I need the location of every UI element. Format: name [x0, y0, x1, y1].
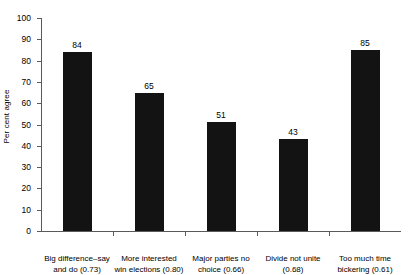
bar: [207, 122, 236, 231]
x-axis-line: [41, 231, 401, 232]
bar: [135, 93, 164, 231]
y-axis-tick: 0: [37, 231, 41, 232]
x-axis-tick: [113, 232, 114, 236]
y-axis-tick: 10: [37, 210, 41, 211]
y-axis-tick-label: 10: [22, 205, 31, 215]
y-axis-tick-label: 20: [22, 183, 31, 193]
y-axis-tick: 80: [37, 61, 41, 62]
y-axis-tick-label: 50: [22, 120, 31, 130]
y-axis-title-label: Per cent agree: [3, 89, 12, 143]
x-axis-tick: [257, 232, 258, 236]
y-axis-tick: 50: [37, 125, 41, 126]
x-axis-category-label: Big difference–say and do (0.73): [41, 254, 113, 275]
x-axis-category-label: Too much time bickering (0.61): [329, 254, 401, 275]
bar-value-label: 65: [129, 81, 169, 91]
bar: [63, 52, 92, 231]
y-axis-tick: 20: [37, 188, 41, 189]
y-axis-tick-label: 80: [22, 56, 31, 66]
y-axis-tick-label: 60: [22, 98, 31, 108]
y-axis-tick-label: 70: [22, 77, 31, 87]
x-axis-tick: [329, 232, 330, 236]
y-axis-tick: 40: [37, 146, 41, 147]
bar: [351, 50, 380, 231]
y-axis-tick: 70: [37, 82, 41, 83]
plot-area: 0102030405060708090100 8465514385 Big di…: [41, 18, 401, 232]
y-axis-tick-label: 40: [22, 141, 31, 151]
y-axis-title: Per cent agree: [0, 0, 14, 232]
y-axis-tick: 60: [37, 103, 41, 104]
bar-value-label: 51: [201, 110, 241, 120]
x-axis-tick: [185, 232, 186, 236]
y-axis-tick-label: 30: [22, 162, 31, 172]
y-axis-tick: 100: [37, 18, 41, 19]
y-axis-tick-label: 100: [17, 13, 31, 23]
bar-value-label: 43: [273, 127, 313, 137]
y-axis-tick: 90: [37, 39, 41, 40]
x-axis-category-label: Divide not unite (0.68): [257, 254, 329, 275]
y-axis-tick: 30: [37, 167, 41, 168]
bar: [279, 139, 308, 231]
bar-value-label: 85: [345, 38, 385, 48]
x-axis-category-label: Major parties no choice (0.66): [185, 254, 257, 275]
bar-value-label: 84: [57, 40, 97, 50]
x-axis-category-label: More interested win elections (0.80): [113, 254, 185, 275]
y-axis-tick-label: 90: [22, 34, 31, 44]
y-axis-line: [41, 18, 42, 232]
y-axis-tick-label: 0: [26, 226, 31, 236]
